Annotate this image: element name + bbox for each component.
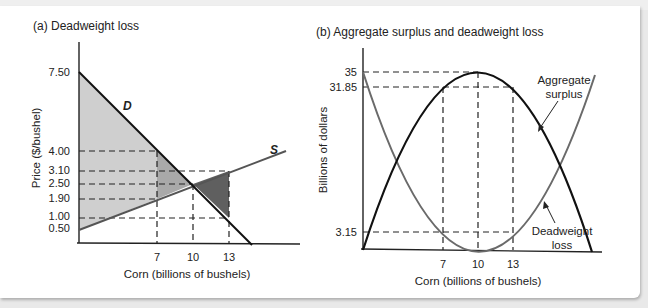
panel-b-x-label: Corn (billions of bushels): [415, 275, 542, 287]
dwl-region-q13: [193, 171, 229, 218]
surplus-arrow-icon: [540, 101, 558, 128]
demand-label: D: [123, 99, 132, 113]
svg-text:2.50: 2.50: [49, 177, 70, 189]
svg-text:10: 10: [187, 251, 199, 263]
panel-a-y-label: Price ($/bushel): [30, 108, 42, 189]
panel-b: (b) Aggregate surplus and deadweight los…: [316, 25, 602, 287]
dwl-arrowhead-icon: [543, 201, 549, 209]
svg-text:3.15: 3.15: [336, 226, 357, 238]
svg-text:3.10: 3.10: [49, 164, 70, 176]
figure-svg: (a) Deadweight loss D S 7.50: [0, 0, 648, 308]
svg-text:1.00: 1.00: [49, 210, 70, 222]
panel-a-x-label: Corn (billions of bushels): [124, 268, 251, 280]
panel-a-title: (a) Deadweight loss: [33, 19, 139, 33]
panel-b-title: (b) Aggregate surplus and deadweight los…: [316, 25, 543, 39]
panel-b-y-label: Billions of dollars: [317, 107, 329, 194]
svg-text:35: 35: [345, 66, 357, 78]
svg-text:0.50: 0.50: [49, 222, 70, 234]
svg-text:4.00: 4.00: [49, 145, 70, 157]
dwl-label-line2: loss: [552, 239, 573, 251]
supply-label: S: [270, 143, 278, 157]
surplus-label-line1: Aggregate: [537, 74, 590, 86]
svg-text:7: 7: [154, 251, 160, 263]
svg-text:13: 13: [223, 251, 235, 263]
panel-b-x-ticks: 7 10 13: [440, 258, 519, 270]
svg-text:10: 10: [472, 258, 484, 270]
surplus-label-line2: surplus: [545, 88, 582, 100]
dwl-region-q7: [157, 151, 193, 199]
panel-a: (a) Deadweight loss D S 7.50: [30, 19, 300, 280]
svg-text:31.85: 31.85: [329, 81, 357, 93]
panel-a-y-ticks: 7.50 4.00 3.10 2.50 1.90 1.00 0.50: [49, 66, 70, 234]
svg-text:13: 13: [507, 258, 519, 270]
panel-a-x-ticks: 7 10 13: [154, 251, 235, 263]
panel-b-y-ticks: 35 31.85 3.15: [329, 66, 357, 238]
panel-b-guides: [363, 72, 513, 250]
dwl-label-line1: Deadweight: [532, 225, 594, 237]
panel-a-x-axis: [77, 243, 300, 244]
svg-text:7: 7: [440, 258, 446, 270]
svg-text:7.50: 7.50: [49, 66, 70, 78]
dwl-arrow-icon: [546, 205, 555, 223]
svg-text:1.90: 1.90: [49, 192, 70, 204]
